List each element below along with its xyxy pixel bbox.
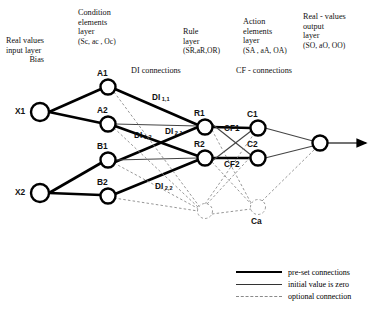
annotation-di-connections: DI connections [131,66,181,76]
edge-label-di-2-2: DI 2,2 [155,182,173,192]
node-label-r2: R2 [194,140,205,150]
edge-b2-ra [114,198,198,211]
edge-label-di-1-2: DI 1,2 [134,131,152,141]
node-b2 [101,189,116,204]
legend-label: pre-set connections [288,268,350,277]
node-x1 [31,103,49,121]
edge-label-cf1: CF1 [224,124,239,134]
node-label-c2: C2 [247,140,258,150]
edge-c1-o1 [265,128,313,141]
edge-label-di-1-1: DI 1,1 [152,93,170,103]
header-input-layer: Real valuesinput layerBias [6,36,44,65]
edge-b1-r2 [115,158,198,160]
header-condition-layer: Conditionelementslayer(Sc, ac , Oc) [78,8,116,47]
node-a1 [101,80,116,95]
edges-preset [49,89,251,195]
node-label-a1: A1 [97,69,108,79]
edge-x2-b2 [49,193,101,195]
edge-x1-a1 [49,89,101,112]
node-r2 [198,151,213,166]
edge-a2-r1 [115,124,198,126]
annotation-cf-connections: CF - connections [236,66,292,76]
legend-label: optional connection [288,292,351,301]
edge-x1-a2 [49,112,101,123]
legend-row-optional: optional connection [236,290,351,302]
legend-swatch-zero [236,284,282,285]
legend-swatch-preset [236,271,282,273]
node-label-ca: Ca [251,217,262,227]
header-action-layer: Actionelementslayer(SA , aA, OA) [243,17,287,56]
legend-row-zero: initial value is zero [236,278,351,290]
edge-b1-r1 [115,127,198,162]
node-label-a2: A2 [97,106,108,116]
node-r1 [198,120,213,135]
node-a2 [101,117,116,132]
node-label-b1: B1 [97,142,108,152]
node-label-x1: X1 [15,107,25,117]
header-output-layer: Real - valuesoutputlayer(SO, aO, OO) [303,12,346,51]
node-b1 [101,153,116,168]
edge-label-cf2: CF2 [224,160,239,170]
edge-a2-r2 [115,126,198,156]
edge-label-di-2-1: DI 2,1 [165,127,183,137]
legend-swatch-optional [236,296,282,297]
edge-c2-o1 [265,146,313,158]
node-c2 [251,151,266,166]
node-label-c1: C1 [247,110,258,120]
node-c1 [251,121,266,136]
legend-label: initial value is zero [288,280,349,289]
node-x2 [31,184,49,202]
node-label-r1: R1 [194,109,205,119]
legend: pre-set connectionsinitial value is zero… [236,266,351,302]
node-ra [198,204,213,219]
header-rule-layer: Rulelayer(SR,aR,OR) [183,27,220,56]
node-label-b2: B2 [97,178,108,188]
node-label-x2: X2 [15,188,25,198]
node-ca [251,200,266,215]
edge-ra-ca [212,209,251,214]
edge-x2-b1 [49,163,101,193]
node-o1 [313,136,328,151]
legend-row-preset: pre-set connections [236,266,351,278]
diagram-canvas: Real valuesinput layerBias Conditionelem… [0,0,373,313]
